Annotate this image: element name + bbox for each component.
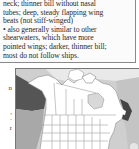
side-fragment [0,100,12,108]
cropped-side-text: n , · r [0,84,12,132]
side-fragment: · [0,116,12,124]
side-fragment [0,92,12,100]
range-map [15,68,139,149]
species-description-box: neck; thinner bill without nasal tubes; … [0,0,136,63]
description-line: most do not follow ships. [3,52,133,61]
side-fragment: n [0,84,12,92]
side-fragment: r [0,124,12,132]
side-fragment: , [0,108,12,116]
range-map-graphic [16,69,139,149]
species-description-text: neck; thinner bill without nasal tubes; … [3,0,133,60]
